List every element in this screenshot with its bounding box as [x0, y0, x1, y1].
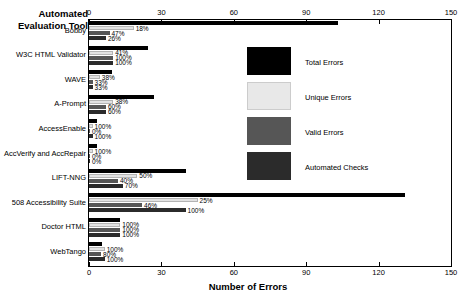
bar-value-label: 60% — [108, 109, 121, 116]
bar-value-label: 100% — [115, 60, 132, 67]
bar-automated-checks — [89, 36, 106, 40]
bar-valid-errors — [89, 228, 120, 232]
tick-mark-bottom-0 — [89, 262, 90, 267]
category-label: AccessEnable — [0, 124, 86, 133]
bar-automated-checks — [89, 134, 93, 138]
category-label: WebTango — [0, 247, 86, 256]
bar-valid-errors — [89, 31, 110, 35]
bar-valid-errors — [89, 154, 90, 158]
tick-label-top-0: 0 — [74, 8, 104, 17]
bar-automated-checks — [89, 159, 90, 163]
category-label: LIFT-NNG — [0, 173, 86, 182]
tick-label-top-60: 60 — [219, 8, 249, 17]
tick-mark-bottom-30 — [161, 262, 162, 267]
category-label: 508 Accessibility Suite — [0, 198, 86, 207]
tick-label-bottom-30: 30 — [146, 268, 176, 277]
legend-label: Unique Errors — [305, 93, 351, 102]
bar-chart: Automated Evaluation Tool Number of Erro… — [0, 0, 471, 301]
bar-automated-checks — [89, 184, 123, 188]
bar-automated-checks — [89, 110, 106, 114]
tick-label-top-30: 30 — [146, 8, 176, 17]
legend-swatch-total-errors — [247, 47, 291, 75]
tick-label-top-120: 120 — [364, 8, 394, 17]
bar-total-errors — [89, 242, 102, 246]
bar-total-errors — [89, 218, 120, 222]
bar-total-errors — [89, 169, 186, 173]
category-label: AccVerify and AccRepair — [0, 149, 86, 158]
bar-automated-checks — [89, 233, 120, 237]
bar-total-errors — [89, 21, 338, 25]
bar-value-label: 26% — [108, 36, 121, 43]
tick-mark-top-150 — [451, 19, 452, 24]
category-label: W3C HTML Validator — [0, 50, 86, 59]
bar-valid-errors — [89, 203, 142, 207]
tick-mark-top-120 — [379, 19, 380, 24]
tick-label-top-90: 90 — [291, 8, 321, 17]
bar-unique-errors — [89, 51, 113, 55]
bar-valid-errors — [89, 56, 113, 60]
tick-label-top-150: 150 — [436, 8, 466, 17]
bar-total-errors — [89, 193, 405, 197]
category-label: Bobby — [0, 26, 86, 35]
bar-value-label: 50% — [139, 173, 152, 180]
bar-value-label: 100% — [107, 257, 124, 264]
bar-valid-errors — [89, 179, 118, 183]
bar-automated-checks — [89, 61, 113, 65]
bar-valid-errors — [89, 129, 90, 133]
bar-value-label: 100% — [188, 208, 205, 215]
bar-automated-checks — [89, 208, 186, 212]
bar-automated-checks — [89, 85, 93, 89]
bar-unique-errors — [89, 223, 120, 227]
bar-value-label: 70% — [125, 183, 138, 190]
bar-value-label: 0% — [92, 159, 101, 166]
bar-value-label: 100% — [122, 232, 139, 239]
bar-automated-checks — [89, 257, 105, 261]
tick-mark-bottom-150 — [451, 262, 452, 267]
bar-valid-errors — [89, 252, 101, 256]
category-label: Doctor HTML — [0, 222, 86, 231]
legend-label: Total Errors — [305, 58, 343, 67]
tick-mark-bottom-90 — [306, 262, 307, 267]
tick-label-bottom-150: 150 — [436, 268, 466, 277]
tick-mark-bottom-60 — [234, 262, 235, 267]
category-label: A-Prompt — [0, 99, 86, 108]
legend-swatch-automated-checks — [247, 152, 291, 180]
x-axis-title: Number of Errors — [88, 281, 408, 292]
tick-label-bottom-120: 120 — [364, 268, 394, 277]
legend-label: Automated Checks — [305, 163, 368, 172]
bar-value-label: 25% — [200, 198, 213, 205]
tick-label-bottom-60: 60 — [219, 268, 249, 277]
legend-label: Valid Errors — [305, 128, 344, 137]
bar-valid-errors — [89, 105, 106, 109]
bar-value-label: 33% — [95, 85, 108, 92]
legend-swatch-valid-errors — [247, 117, 291, 145]
tick-mark-bottom-120 — [379, 262, 380, 267]
tick-label-bottom-90: 90 — [291, 268, 321, 277]
tick-label-bottom-0: 0 — [74, 268, 104, 277]
category-label: WAVE — [0, 75, 86, 84]
bar-value-label: 100% — [95, 134, 112, 141]
legend-swatch-unique-errors — [247, 82, 291, 110]
bar-value-label: 18% — [136, 26, 149, 33]
bar-valid-errors — [89, 80, 93, 84]
